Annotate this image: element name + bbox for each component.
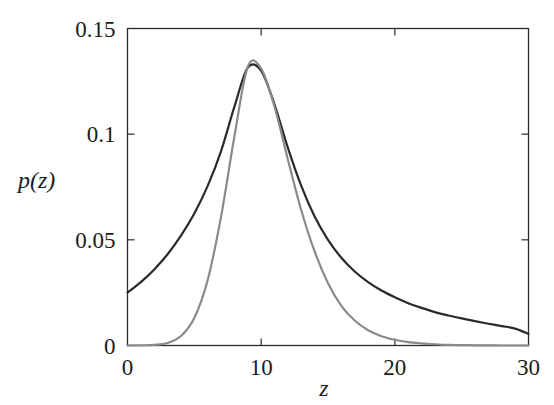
- plot-frame: [128, 29, 529, 346]
- x-tick-label-30: 30: [517, 356, 540, 379]
- axis-box: [128, 29, 529, 346]
- x-tick-label-10: 10: [250, 356, 273, 379]
- figure-canvas: 00.050.10.15 0102030 p(z) z: [0, 0, 554, 405]
- y-tick-label-0.1: 0.1: [0, 123, 116, 146]
- y-axis-title: p(z): [18, 168, 55, 192]
- y-tick-label-0.05: 0.05: [0, 228, 116, 251]
- tick-marks: [128, 29, 529, 346]
- series-heavy-tailed-density: [128, 64, 529, 334]
- y-tick-label-0.15: 0.15: [0, 17, 116, 40]
- x-tick-label-20: 20: [383, 356, 406, 379]
- x-tick-label-0: 0: [122, 356, 134, 379]
- data-series: [128, 60, 529, 345]
- series-gaussian-density: [128, 60, 529, 345]
- y-tick-label-0: 0: [0, 334, 116, 357]
- x-axis-title: z: [319, 376, 328, 400]
